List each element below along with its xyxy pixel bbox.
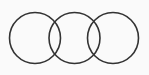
three-circles-diagram [0, 0, 149, 75]
